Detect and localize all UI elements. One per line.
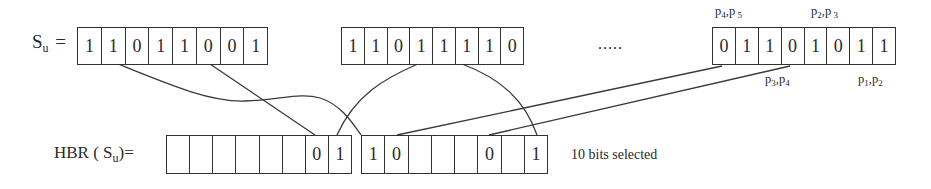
bit-cell: 1: [365, 28, 388, 64]
su-subscript: u: [43, 41, 49, 55]
annotation-p1-p2: p1,p2: [858, 72, 883, 88]
bit-cell: 0: [126, 28, 150, 64]
bit-cell: 0: [197, 28, 221, 64]
bit-cell: 1: [759, 28, 782, 64]
ellipsis: .....: [598, 35, 623, 53]
bit-cell: [236, 136, 259, 173]
bit-cell: 1: [102, 28, 126, 64]
wire-su3-bit1-to-hbr-right-bit2: [397, 66, 722, 135]
su-register-2: 1 1 0 1 1 1 1 0: [341, 27, 524, 65]
bit-cell: 1: [78, 28, 102, 64]
bit-cell: 0: [782, 28, 805, 64]
bit-cell: 0: [501, 28, 523, 64]
hbr-register-right: 1 0 0 1: [361, 135, 548, 174]
annotation-p3-p4: p3,p4: [765, 72, 790, 88]
bit-cell: 0: [713, 28, 736, 64]
bit-cell: [213, 136, 236, 173]
bit-cell: 1: [362, 136, 385, 173]
bit-cell: [167, 136, 190, 173]
bit-cell: 0: [388, 28, 411, 64]
ann-sub: 5: [735, 10, 742, 20]
bit-cell: [260, 136, 283, 173]
bit-cell: 1: [456, 28, 479, 64]
bit-cell: 1: [479, 28, 502, 64]
su-equals: =: [55, 31, 66, 52]
su-register-1: 1 1 0 1 1 0 0 1: [77, 27, 268, 65]
bit-cell: [283, 136, 306, 173]
bit-cell: 0: [385, 136, 408, 173]
bit-cell: 0: [827, 28, 850, 64]
wire-su2-bit4-to-hbr-left-bit8: [337, 64, 418, 135]
wire-su3-bit4-to-hbr-right-bit6: [489, 66, 790, 135]
bit-cell: 1: [805, 28, 828, 64]
bit-cell: 1: [149, 28, 173, 64]
bit-cell: 0: [306, 136, 329, 173]
bit-cell: 1: [173, 28, 197, 64]
bit-cell: [190, 136, 213, 173]
bit-cell: [409, 136, 432, 173]
bits-selected-note: 10 bits selected: [571, 147, 657, 163]
su-symbol: S: [32, 31, 43, 52]
bit-cell: 1: [410, 28, 433, 64]
bit-cell: 1: [850, 28, 873, 64]
bit-cell: [455, 136, 478, 173]
ann-sub: 4: [785, 78, 790, 88]
annotation-p4-p5: p4,p 5: [715, 4, 742, 20]
bit-cell: 1: [342, 28, 365, 64]
annotation-p2-p3: p2,p 3: [811, 4, 838, 20]
wire-su1-bit2-to-hbr-right-bit1: [118, 64, 361, 135]
hbr-label: HBR ( Su)=: [54, 143, 134, 166]
su-register-3: 0 1 1 0 1 0 1 1: [712, 27, 896, 65]
bit-cell: 1: [873, 28, 895, 64]
bit-cell: 1: [433, 28, 456, 64]
hbr-register-left: 0 1: [166, 135, 352, 174]
ann-sub: 3: [831, 10, 838, 20]
bit-cell: 0: [221, 28, 245, 64]
bit-cell: 1: [329, 136, 351, 173]
ann-sub: 2: [878, 78, 883, 88]
bit-cell: 1: [244, 28, 267, 64]
wire-su2-bit6-to-hbr-right-bit8: [462, 64, 537, 135]
bit-cell: [502, 136, 525, 173]
hbr-prefix: HBR ( S: [54, 143, 113, 162]
bit-cell: 1: [736, 28, 759, 64]
bit-cell: 0: [478, 136, 501, 173]
bit-cell: 1: [525, 136, 547, 173]
hbr-suffix: )=: [119, 143, 134, 162]
bit-cell: [432, 136, 455, 173]
su-label: Su =: [32, 31, 66, 56]
